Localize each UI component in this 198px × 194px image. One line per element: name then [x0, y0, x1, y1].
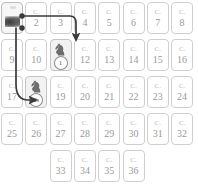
card-23[interactable]: C.23	[147, 76, 169, 108]
card-8[interactable]: C.8	[171, 2, 193, 34]
card-number: 20	[80, 91, 90, 102]
card-28[interactable]: C.28	[74, 113, 96, 145]
card-11[interactable]: 1	[50, 39, 72, 71]
card-prefix: C.	[179, 120, 185, 127]
card-4[interactable]: C.4	[74, 2, 96, 34]
thumbnail-highlight	[10, 6, 16, 9]
card-prefix: C.	[106, 46, 112, 53]
move-badge: 2s	[29, 93, 43, 107]
card-30[interactable]: C.30	[123, 113, 145, 145]
card-17[interactable]: C.17	[1, 76, 23, 108]
card-grid: C.2C.3C.4C.5C.6C.7C.8C.9C.101C.12C.13C.1…	[0, 0, 198, 194]
card-number: 2	[34, 17, 39, 28]
card-14[interactable]: C.14	[123, 39, 145, 71]
card-prefix: C.	[106, 83, 112, 90]
card-prefix: C.	[33, 46, 39, 53]
card-prefix: C.	[57, 120, 63, 127]
card-prefix: C.	[106, 9, 112, 16]
card-prefix: C.	[57, 9, 63, 16]
card-number: 19	[56, 91, 66, 102]
card-prefix: C.	[155, 46, 161, 53]
card-prefix: C.	[130, 46, 136, 53]
card-19[interactable]: C.19	[50, 76, 72, 108]
card-number: 23	[153, 91, 163, 102]
card-prefix: C.	[9, 120, 15, 127]
card-36[interactable]: C.36	[123, 150, 145, 182]
card-prefix: C.	[130, 83, 136, 90]
card-number: 25	[7, 128, 17, 139]
card-9[interactable]: C.9	[1, 39, 23, 71]
card-22[interactable]: C.22	[123, 76, 145, 108]
card-3[interactable]: C.3	[50, 2, 72, 34]
card-number: 13	[104, 54, 114, 65]
card-25[interactable]: C.25	[1, 113, 23, 145]
card-number: 24	[177, 91, 187, 102]
card-12[interactable]: C.12	[74, 39, 96, 71]
card-35[interactable]: C.35	[98, 150, 120, 182]
card-prefix: C.	[179, 46, 185, 53]
card-prefix: C.	[155, 83, 161, 90]
card-prefix: C.	[33, 9, 39, 16]
card-15[interactable]: C.15	[147, 39, 169, 71]
card-24[interactable]: C.24	[171, 76, 193, 108]
card-21[interactable]: C.21	[98, 76, 120, 108]
card-prefix: C.	[155, 120, 161, 127]
card-27[interactable]: C.27	[50, 113, 72, 145]
move-badge-label: 1	[59, 60, 62, 66]
card-18[interactable]: 2s	[25, 76, 47, 108]
card-prefix: C.	[57, 83, 63, 90]
move-badge: 1	[54, 56, 68, 70]
card-number: 31	[153, 128, 163, 139]
card-prefix: C.	[82, 83, 88, 90]
card-prefix: C.	[106, 120, 112, 127]
card-prefix: C.	[57, 157, 63, 164]
card-10[interactable]: C.10	[25, 39, 47, 71]
card-prefix: C.	[82, 120, 88, 127]
card-1[interactable]	[1, 2, 23, 34]
card-number: 30	[129, 128, 139, 139]
card-2[interactable]: C.2	[25, 2, 47, 34]
chess-knight-icon	[52, 41, 69, 57]
card-20[interactable]: C.20	[74, 76, 96, 108]
card-16[interactable]: C.16	[171, 39, 193, 71]
thumbnail-subject	[5, 16, 20, 27]
card-number: 29	[104, 128, 114, 139]
card-prefix: C.	[179, 9, 185, 16]
card-31[interactable]: C.31	[147, 113, 169, 145]
card-number: 8	[180, 17, 185, 28]
card-prefix: C.	[179, 83, 185, 90]
card-6[interactable]: C.6	[123, 2, 145, 34]
card-34[interactable]: C.34	[74, 150, 96, 182]
card-13[interactable]: C.13	[98, 39, 120, 71]
card-33[interactable]: C.33	[50, 150, 72, 182]
card-number: 12	[80, 54, 90, 65]
card-number: 15	[153, 54, 163, 65]
card-7[interactable]: C.7	[147, 2, 169, 34]
card-29[interactable]: C.29	[98, 113, 120, 145]
card-number: 22	[129, 91, 139, 102]
card-number: 28	[80, 128, 90, 139]
card-5[interactable]: C.5	[98, 2, 120, 34]
card-number: 34	[80, 165, 90, 176]
card-32[interactable]: C.32	[171, 113, 193, 145]
card-prefix: C.	[155, 9, 161, 16]
card-number: 16	[177, 54, 187, 65]
card-prefix: C.	[82, 9, 88, 16]
card-prefix: C.	[130, 157, 136, 164]
card-number: 3	[58, 17, 63, 28]
card-prefix: C.	[33, 120, 39, 127]
card-board: C.2C.3C.4C.5C.6C.7C.8C.9C.101C.12C.13C.1…	[0, 0, 198, 194]
chess-knight-icon	[28, 78, 45, 94]
card-number: 5	[107, 17, 112, 28]
card-26[interactable]: C.26	[25, 113, 47, 145]
card-prefix: C.	[82, 46, 88, 53]
card-prefix: C.	[82, 157, 88, 164]
card-number: 35	[104, 165, 114, 176]
card-prefix: C.	[106, 157, 112, 164]
card-number: 4	[82, 17, 87, 28]
card-prefix: C.	[9, 46, 15, 53]
card-number: 6	[131, 17, 136, 28]
card-number: 26	[31, 128, 41, 139]
card-number: 10	[31, 54, 41, 65]
card-number: 21	[104, 91, 114, 102]
